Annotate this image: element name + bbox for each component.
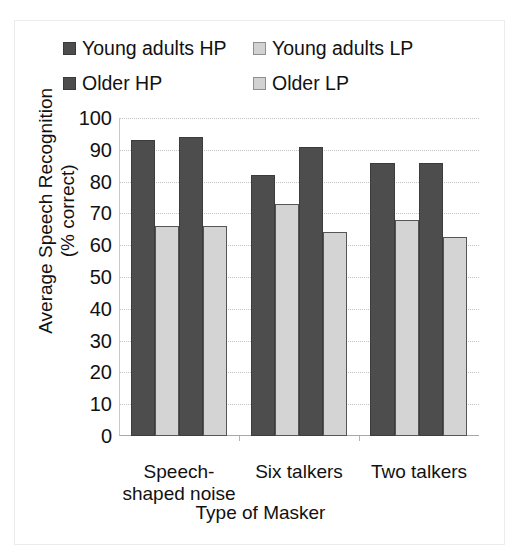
bar-slot: [299, 118, 323, 436]
bar-series-container: [119, 118, 479, 436]
x-axis-tick-separator: [239, 436, 240, 441]
legend-label: Young adults HP: [82, 39, 227, 59]
bar-slot: [203, 118, 227, 436]
bar: [203, 226, 227, 436]
legend-row: Young adults HP Young adults LP: [63, 31, 463, 66]
y-axis-title: Average Speech Recognition (% correct): [35, 51, 79, 371]
y-axis-tick-label: 10: [90, 394, 112, 414]
y-axis-tick-label: 80: [90, 172, 112, 192]
plot-area: 1009080706050403020100: [119, 118, 479, 436]
bar-slot: [131, 118, 155, 436]
chart-figure: Young adults HP Young adults LP Older HP…: [14, 20, 505, 545]
legend-item-young-adults-lp: Young adults LP: [253, 39, 413, 59]
x-axis-title: Type of Masker: [15, 502, 506, 524]
legend-item-young-adults-hp: Young adults HP: [63, 39, 253, 59]
y-axis-tick-label: 90: [90, 140, 112, 160]
y-axis-tick-label: 20: [90, 362, 112, 382]
x-axis-tick-label-line: Two talkers: [349, 461, 489, 483]
bar-group: [370, 118, 467, 436]
x-axis-tick-label-line: Speech-: [109, 461, 249, 483]
y-axis-tick-label: 40: [90, 299, 112, 319]
bar-slot: [179, 118, 203, 436]
y-axis-tick-label: 60: [90, 235, 112, 255]
bar-slot: [275, 118, 299, 436]
bar-spacer: [119, 118, 131, 436]
bar-slot: [155, 118, 179, 436]
bar-spacer: [467, 118, 479, 436]
bar: [370, 163, 394, 436]
x-axis-tick-label: Speech-shaped noise: [109, 461, 249, 505]
bar: [251, 175, 275, 436]
bar-slot: [251, 118, 275, 436]
bar-slot: [443, 118, 467, 436]
legend-label: Older HP: [82, 74, 162, 94]
x-axis-tick-labels: Speech-shaped noiseSix talkersTwo talker…: [119, 461, 479, 503]
x-axis-tick-label: Two talkers: [349, 461, 489, 483]
bar: [131, 140, 155, 436]
bar-slot: [370, 118, 394, 436]
bar-slot: [419, 118, 443, 436]
y-axis-tick-label: 100: [79, 108, 112, 128]
bar: [155, 226, 179, 436]
x-axis-tick-separator: [359, 436, 360, 441]
x-axis-tick-label-line: Six talkers: [229, 461, 369, 483]
legend-item-older-hp: Older HP: [63, 74, 253, 94]
chart-legend: Young adults HP Young adults LP Older HP…: [63, 31, 463, 101]
bar-slot: [323, 118, 347, 436]
bar-group: [131, 118, 228, 436]
bar-spacer: [227, 118, 250, 436]
y-axis-tick-label: 0: [101, 426, 112, 446]
bar: [275, 204, 299, 436]
legend-swatch-icon: [253, 42, 266, 55]
x-axis-tick-label: Six talkers: [229, 461, 369, 483]
bar: [419, 163, 443, 436]
bar: [323, 232, 347, 436]
y-axis-tick-label: 30: [90, 331, 112, 351]
bar: [443, 237, 467, 436]
bar: [299, 147, 323, 436]
y-axis-title-line1: Average Speech Recognition: [35, 51, 57, 371]
legend-row: Older HP Older LP: [63, 66, 463, 101]
y-axis-title-line2: (% correct): [57, 51, 79, 371]
bar: [395, 220, 419, 436]
bar-spacer: [347, 118, 370, 436]
legend-label: Young adults LP: [272, 39, 413, 59]
y-axis-tick-label: 50: [90, 267, 112, 287]
bar-group: [251, 118, 348, 436]
y-axis-tick-label: 70: [90, 203, 112, 223]
bar: [179, 137, 203, 436]
legend-item-older-lp: Older LP: [253, 74, 349, 94]
legend-label: Older LP: [272, 74, 349, 94]
legend-swatch-icon: [253, 77, 266, 90]
bar-slot: [395, 118, 419, 436]
